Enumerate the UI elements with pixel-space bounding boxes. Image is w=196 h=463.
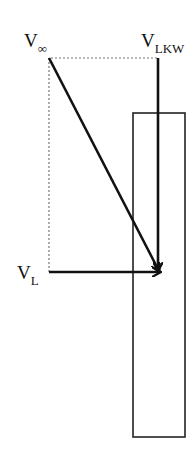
label-v-lkw-sub: LKW [155,41,185,56]
v-inf-arrow [49,58,159,271]
label-v-inf-sub: ∞ [38,41,47,56]
vector-diagram [0,0,196,463]
label-v-l-main: V [17,262,31,283]
label-v-lkw: VLKW [141,31,184,50]
label-v-l: VL [17,263,39,282]
label-v-inf-main: V [24,30,38,51]
label-v-inf: V∞ [24,31,47,50]
label-v-lkw-main: V [141,30,155,51]
label-v-l-sub: L [31,273,39,288]
